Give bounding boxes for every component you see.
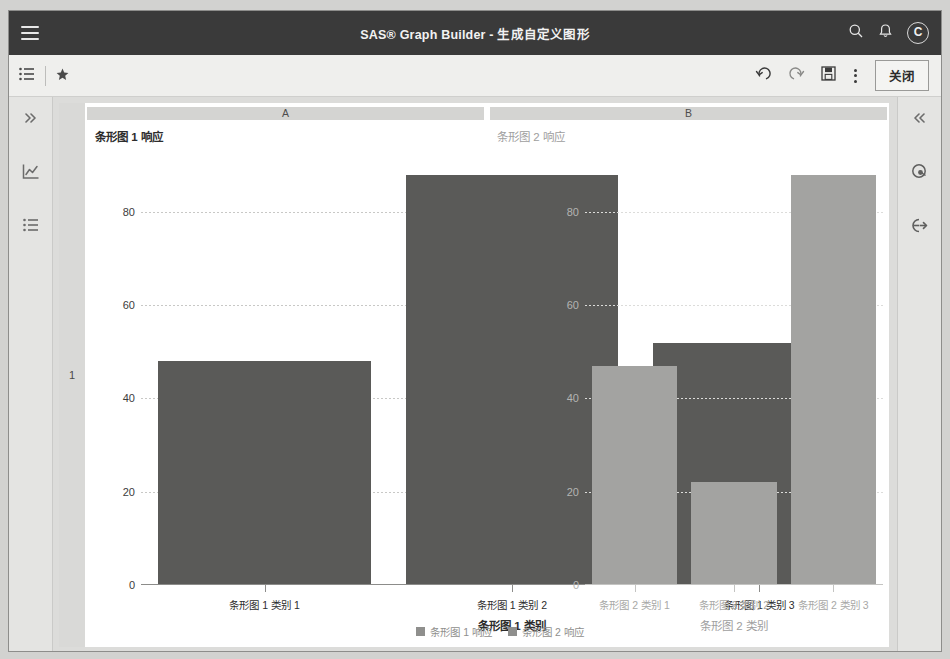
app-header: SAS® Graph Builder - 生成自定义图形 C [9,11,941,55]
x-axis-tick-label: 条形图 2 类别 2 [684,585,783,612]
bar[interactable] [592,366,677,585]
panel-b-bars [585,156,883,585]
editor-body: 1 A B 条形图 1 响应 020406080 [9,97,941,652]
x-axis-tick-label: 条形图 2 类别 1 [585,585,684,612]
right-rail [897,97,941,652]
page-title: SAS® Graph Builder - 生成自定义图形 [9,24,941,43]
more-vertical-icon[interactable] [852,67,859,85]
column-header-a: A [87,107,484,120]
row-header-strip: 1 [59,103,85,647]
panel-b: 条形图 2 响应 020406080 条形图 2 类别 1条形图 2 类别 2条… [85,122,889,647]
bar[interactable] [791,175,876,585]
list-icon[interactable] [19,67,35,85]
bell-icon[interactable] [878,23,893,43]
panel-b-plot-box: 020406080 条形图 2 类别 1条形图 2 类别 2条形图 2 类别 3… [585,156,883,585]
editor-toolbar: 关闭 [9,55,941,97]
y-axis-tick-label: 60 [567,299,579,311]
hamburger-icon[interactable] [21,26,39,40]
y-axis-tick-label: 40 [567,392,579,404]
save-icon[interactable] [821,66,836,85]
legend-swatch [508,627,517,636]
graph-canvas[interactable]: 1 A B 条形图 1 响应 020406080 [53,97,897,652]
search-icon[interactable] [848,23,864,43]
star-icon[interactable] [56,67,69,85]
graph-card: 1 A B 条形图 1 响应 020406080 [59,103,889,647]
y-axis-tick-label: 20 [567,486,579,498]
legend-swatch [416,627,425,636]
list-icon[interactable] [23,218,39,236]
legend-label: 条形图 2 响应 [522,624,584,639]
left-rail [9,97,53,652]
bar-slot [784,156,883,585]
x-axis-tick-label: 条形图 2 类别 3 [784,585,883,612]
panel-b-x-ticks: 条形图 2 类别 1条形图 2 类别 2条形图 2 类别 3 [585,585,883,612]
toolbar-divider [45,66,46,86]
plot-area: A B 条形图 1 响应 020406080 [85,103,889,647]
y-axis-tick-label: 0 [573,579,579,591]
chart-icon[interactable] [22,163,40,184]
chevron-double-right-icon[interactable] [23,111,39,129]
panels-container: 条形图 1 响应 020406080 条形图 1 类别 1条形图 1 类别 2条… [85,122,889,647]
bar-slot [585,156,684,585]
data-export-icon[interactable] [911,218,928,237]
screenshot-root: SAS® Graph Builder - 生成自定义图形 C [0,0,950,659]
toolbar-actions: 关闭 [755,60,929,91]
y-axis-tick-label: 80 [567,206,579,218]
chart-legend: 条形图 1 响应条形图 2 响应 [111,624,889,639]
panel-b-y-axis-title: 条形图 2 响应 [497,128,565,144]
redo-icon[interactable] [788,66,805,85]
close-button[interactable]: 关闭 [875,60,929,91]
app-header-actions: C [848,22,929,44]
legend-label: 条形图 1 响应 [430,624,492,639]
row-header-label: 1 [69,369,75,381]
legend-item[interactable]: 条形图 2 响应 [508,624,584,639]
undo-icon[interactable] [755,66,772,85]
bar-slot [684,156,783,585]
column-header-b: B [490,107,887,120]
avatar[interactable]: C [907,22,929,44]
chevron-double-left-icon[interactable] [912,111,928,129]
application-window: SAS® Graph Builder - 生成自定义图形 C [8,10,942,652]
roles-icon[interactable] [911,163,928,184]
bar[interactable] [691,482,776,585]
legend-item[interactable]: 条形图 1 响应 [416,624,492,639]
column-headers: A B [85,103,889,120]
